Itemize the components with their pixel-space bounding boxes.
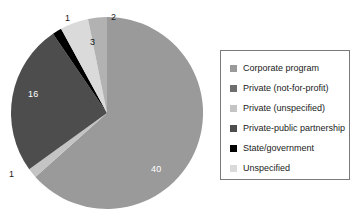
pie-chart-plot-area: 40 16 1 3 1 2 [6, 12, 208, 214]
legend-swatch-icon [230, 65, 237, 72]
legend-label: Private (not-for-profit) [243, 83, 329, 94]
legend-item-private-not-for-profit[interactable]: Private (not-for-profit) [230, 79, 349, 98]
legend-swatch-icon [230, 105, 237, 112]
slice-value-private-not-for-profit: 16 [28, 89, 38, 99]
legend-item-private-public-partnership[interactable]: Private-public partnership [230, 119, 349, 138]
legend-item-private-unspecified[interactable]: Private (unspecified) [230, 99, 349, 118]
legend-label: Private (unspecified) [243, 103, 325, 114]
legend-item-state-government[interactable]: State/government [230, 139, 349, 158]
legend-label: Unspecified [243, 163, 290, 174]
pie-svg [6, 12, 208, 214]
legend-swatch-icon [230, 85, 237, 92]
legend-item-unspecified[interactable]: Unspecified [230, 159, 349, 178]
slice-value-private-unspecified: 1 [9, 169, 14, 179]
slice-value-state-government: 1 [65, 13, 70, 23]
chart-legend: Corporate program Private (not-for-profi… [220, 50, 350, 180]
legend-label: Corporate program [243, 63, 319, 74]
legend-label: Private-public partnership [243, 123, 345, 134]
slice-value-corporate-program: 40 [151, 164, 161, 174]
legend-swatch-icon [230, 165, 237, 172]
legend-label: State/government [243, 143, 314, 154]
legend-swatch-icon [230, 145, 237, 152]
legend-item-corporate-program[interactable]: Corporate program [230, 59, 349, 78]
pie-slices [11, 17, 203, 209]
slice-value-private-public-partnership: 3 [90, 37, 95, 47]
legend-swatch-icon [230, 125, 237, 132]
pie-chart-figure: 40 16 1 3 1 2 Corporate program Private … [0, 0, 364, 216]
slice-value-unspecified: 2 [111, 12, 116, 22]
